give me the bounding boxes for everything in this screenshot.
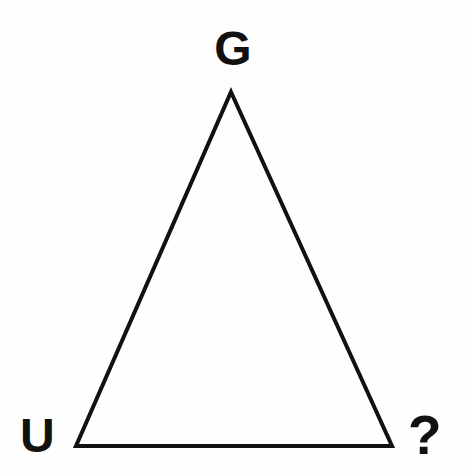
vertex-label-bottom-right: ?: [408, 408, 442, 463]
vertex-label-bottom-left: U: [20, 412, 55, 460]
triangle-outline: [76, 92, 392, 446]
vertex-label-apex: G: [0, 25, 466, 73]
diagram-canvas: G U ?: [0, 0, 472, 475]
